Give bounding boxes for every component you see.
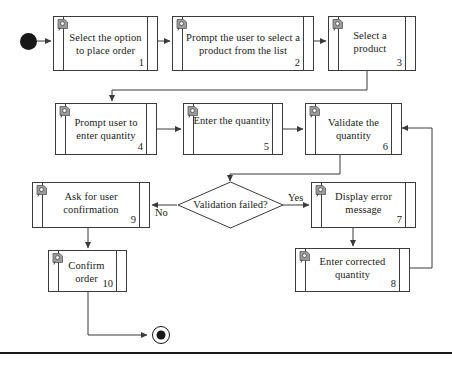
node-number: 10 bbox=[103, 278, 114, 290]
node-label: Enter the quantity bbox=[192, 114, 271, 127]
activity-node-5[interactable]: Enter the quantity 5 bbox=[183, 103, 283, 155]
node-label: Enter corrected quantity bbox=[307, 255, 398, 281]
activity-node-2[interactable]: Prompt the user to select a product from… bbox=[172, 16, 314, 71]
node-label: Ask for user confirmation bbox=[44, 190, 138, 216]
node-right-rule bbox=[405, 183, 406, 227]
decision-node[interactable]: Validation failed? bbox=[177, 181, 284, 229]
node-body: Enter the quantity bbox=[192, 104, 272, 154]
node-label: Display error message bbox=[323, 190, 404, 216]
node-body: Prompt user to enter quantity bbox=[67, 104, 145, 154]
node-number: 1 bbox=[139, 57, 144, 69]
edge-6-to-decision bbox=[230, 155, 340, 181]
node-right-rule bbox=[272, 104, 273, 154]
edge-label-no: No bbox=[155, 207, 168, 219]
node-body: Display error message bbox=[323, 179, 404, 227]
node-label: Select the option to place order bbox=[65, 31, 146, 57]
node-label: Validate the quantity bbox=[317, 116, 390, 142]
node-body: Ask for user confirmation bbox=[44, 179, 138, 227]
node-right-rule bbox=[146, 104, 147, 154]
node-label: Prompt user to enter quantity bbox=[67, 116, 145, 142]
activity-node-8[interactable]: Enter corrected quantity 8 bbox=[295, 248, 410, 292]
flowchart-canvas: Select the option to place order 1 Promp… bbox=[0, 0, 452, 367]
node-number: 3 bbox=[397, 57, 402, 69]
activity-node-4[interactable]: Prompt user to enter quantity 4 bbox=[55, 103, 157, 155]
node-number: 9 bbox=[131, 214, 136, 226]
activity-node-7[interactable]: Display error message 7 bbox=[311, 182, 416, 228]
activity-node-3[interactable]: Select a product 3 bbox=[328, 16, 416, 71]
edge-10-to-end bbox=[88, 292, 147, 335]
node-number: 2 bbox=[295, 57, 300, 69]
final-node bbox=[152, 326, 170, 344]
node-body: Enter corrected quantity bbox=[307, 244, 398, 291]
initial-node bbox=[20, 33, 37, 50]
node-number: 4 bbox=[138, 141, 143, 153]
node-number: 7 bbox=[397, 214, 402, 226]
node-right-rule bbox=[147, 17, 148, 70]
node-right-rule bbox=[303, 17, 304, 70]
node-right-rule bbox=[399, 249, 400, 291]
node-body: Select the option to place order bbox=[65, 17, 146, 70]
node-right-rule bbox=[139, 183, 140, 227]
final-node-core bbox=[157, 331, 166, 340]
node-right-rule bbox=[405, 17, 406, 70]
edge-label-yes: Yes bbox=[288, 192, 303, 204]
node-label: Prompt the user to select a product from… bbox=[184, 31, 302, 57]
node-number: 8 bbox=[391, 278, 396, 290]
node-body: Validate the quantity bbox=[317, 104, 390, 154]
node-body: Select a product bbox=[336, 17, 404, 70]
node-right-rule bbox=[391, 104, 392, 154]
decision-label: Validation failed? bbox=[177, 199, 284, 211]
edge-3-to-4 bbox=[112, 71, 367, 101]
node-number: 5 bbox=[264, 141, 269, 153]
node-body: Prompt the user to select a product from… bbox=[184, 17, 302, 70]
activity-node-6[interactable]: Validate the quantity 6 bbox=[305, 103, 402, 155]
activity-node-9[interactable]: Ask for user confirmation 9 bbox=[32, 182, 150, 228]
node-label: Select a product bbox=[336, 29, 404, 55]
activity-node-1[interactable]: Select the option to place order 1 bbox=[53, 16, 158, 71]
footer-divider bbox=[0, 352, 452, 354]
activity-node-10[interactable]: Confirm order 10 bbox=[48, 250, 127, 292]
node-number: 6 bbox=[383, 141, 388, 153]
